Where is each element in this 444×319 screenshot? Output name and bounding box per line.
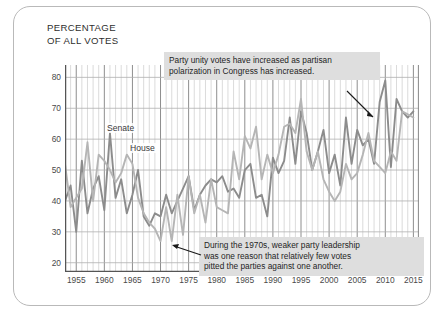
y-axis-tick-labels: 20304050607080	[33, 65, 61, 272]
x-axis-tick-labels: 1955196019651970197519801985199019952000…	[65, 275, 419, 291]
y-tick-label: 30	[35, 227, 61, 237]
x-tick-label: 1965	[123, 275, 142, 285]
series-label-senate: Senate	[106, 123, 135, 133]
chart-axis-title: PERCENTAGE OF ALL VOTES	[47, 22, 119, 47]
y-tick-label: 50	[35, 165, 61, 175]
y-tick-label: 70	[35, 103, 61, 113]
x-tick-label: 2000	[320, 275, 339, 285]
x-tick-label: 1980	[207, 275, 226, 285]
y-tick-label: 20	[35, 258, 61, 268]
x-tick-label: 1955	[67, 275, 86, 285]
y-tick-label: 60	[35, 134, 61, 144]
bottom-accent-bar	[42, 305, 431, 306]
x-tick-label: 2005	[348, 275, 367, 285]
series-label-house: House	[129, 143, 156, 153]
chart-card: PERCENTAGE OF ALL VOTES 20304050607080 1…	[13, 6, 431, 306]
x-tick-label: 2015	[404, 275, 423, 285]
x-tick-label: 1960	[95, 275, 114, 285]
x-tick-label: 1975	[179, 275, 198, 285]
y-tick-label: 40	[35, 196, 61, 206]
x-tick-label: 1970	[151, 275, 170, 285]
x-tick-label: 1990	[264, 275, 283, 285]
x-tick-label: 1985	[235, 275, 254, 285]
horizontal-gridlines	[65, 77, 419, 262]
x-tick-label: 1995	[292, 275, 311, 285]
x-tick-label: 2010	[376, 275, 395, 285]
annotation-1970s-weak-leadership: During the 1970s, weaker party leadershi…	[199, 237, 424, 276]
annotation-party-unity-increase: Party unity votes have increased as part…	[164, 52, 380, 80]
y-tick-label: 80	[35, 72, 61, 82]
